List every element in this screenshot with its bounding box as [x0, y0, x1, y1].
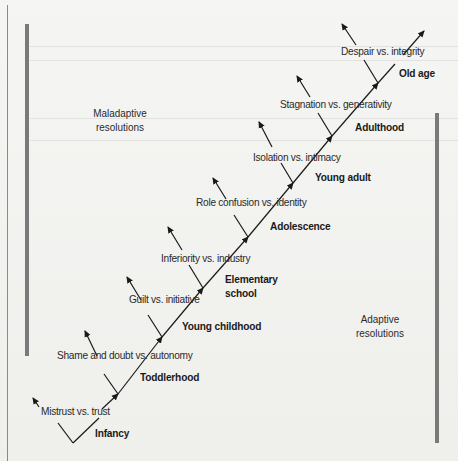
elementary-line2: school: [225, 286, 278, 300]
crisis-label-young-childhood: Guilt vs. initiative: [129, 293, 200, 305]
stage-label-old-age: Old age: [399, 66, 435, 80]
infancy-left-arm: [58, 423, 73, 443]
stage-label-elementary-school: Elementary school: [225, 272, 278, 300]
branch-diagram: [0, 0, 458, 461]
adaptive-resolutions-label: Adaptive resolutions: [335, 312, 425, 340]
adaptive-line2: resolutions: [335, 326, 425, 340]
crisis-label-old-age: Despair vs. integrity: [341, 45, 424, 57]
stage-label-young-adult: Young adult: [315, 170, 371, 184]
elementary-line1: Elementary: [225, 272, 278, 286]
stage-label-adulthood: Adulthood: [355, 120, 404, 134]
stage-label-young-childhood: Young childhood: [182, 319, 261, 333]
crisis-label-adulthood: Stagnation vs. generativity: [280, 98, 392, 110]
crisis-label-toddlerhood: Shame and doubt vs. autonomy: [57, 349, 193, 361]
maladaptive-line2: resolutions: [75, 120, 165, 134]
maladaptive-resolutions-label: Maladaptive resolutions: [75, 106, 165, 134]
crisis-label-elementary: Inferiority vs. industry: [161, 252, 250, 264]
crisis-label-infancy: Mistrust vs. trust: [41, 405, 110, 417]
stage-label-adolescence: Adolescence: [270, 219, 331, 233]
stage-label-infancy: Infancy: [95, 426, 129, 440]
maladaptive-line1: Maladaptive: [75, 106, 165, 120]
adaptive-line1: Adaptive: [335, 312, 425, 326]
mistrust-arrow: [33, 398, 39, 407]
crisis-label-adolescence: Role confusion vs. identity: [196, 196, 306, 208]
crisis-label-young-adult: Isolation vs. intimacy: [253, 151, 341, 163]
stage-label-toddlerhood: Toddlerhood: [140, 370, 199, 384]
